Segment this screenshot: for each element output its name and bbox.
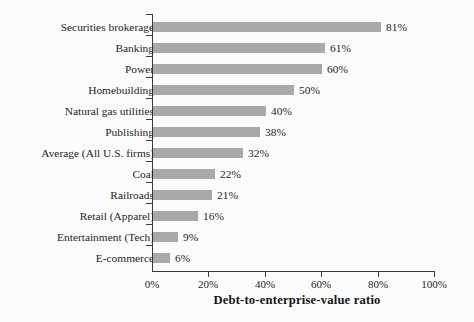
bar-row: Power60% — [0, 59, 474, 80]
category-label: Power — [4, 59, 154, 80]
bar — [153, 85, 294, 95]
x-tick-label: 40% — [242, 277, 288, 291]
bar-value-label: 38% — [265, 122, 286, 143]
bar-row: Coal22% — [0, 164, 474, 185]
bar — [153, 211, 198, 221]
bar — [153, 43, 325, 53]
bar — [153, 22, 381, 32]
bar-row: Homebuilding50% — [0, 80, 474, 101]
category-label: Entertainment (Tech) — [4, 227, 154, 248]
category-label: Publishing — [4, 122, 154, 143]
bar-row: Retail (Apparel)16% — [0, 206, 474, 227]
category-label: Natural gas utilities — [4, 101, 154, 122]
category-label: Homebuilding — [4, 80, 154, 101]
bar-value-label: 16% — [203, 206, 224, 227]
category-label: Securities brokerage — [4, 17, 154, 38]
x-axis-title-text: Debt-to-enterprise-value ratio — [213, 293, 380, 307]
x-axis-title: Debt-to-enterprise-value ratio — [0, 293, 474, 308]
bar — [153, 106, 266, 116]
x-tick-label: 60% — [298, 277, 344, 291]
bar — [153, 64, 322, 74]
bar-row: Publishing38% — [0, 122, 474, 143]
bar-value-label: 32% — [248, 143, 269, 164]
category-label: E-commerce — [4, 248, 154, 269]
bar — [153, 232, 178, 242]
bar-row: Average (All U.S. firms)32% — [0, 143, 474, 164]
bar-value-label: 9% — [183, 227, 198, 248]
bar — [153, 190, 212, 200]
x-tick-label: 0% — [129, 277, 175, 291]
bar-row: Railroads21% — [0, 185, 474, 206]
bar-row: E-commerce6% — [0, 248, 474, 269]
bar-value-label: 61% — [330, 38, 351, 59]
x-tick-label: 100% — [411, 277, 457, 291]
bar — [153, 127, 260, 137]
bar-row: Securities brokerage81% — [0, 17, 474, 38]
category-label: Banking — [4, 38, 154, 59]
category-label: Average (All U.S. firms) — [4, 143, 154, 164]
bar — [153, 253, 170, 263]
bar — [153, 148, 243, 158]
category-label: Railroads — [4, 185, 154, 206]
bar-chart: Securities brokerage81%Banking61%Power60… — [0, 0, 474, 322]
bar-row: Banking61% — [0, 38, 474, 59]
y-tick — [146, 14, 152, 15]
bar-row: Entertainment (Tech)9% — [0, 227, 474, 248]
bar — [153, 169, 215, 179]
bar-value-label: 60% — [327, 59, 348, 80]
bar-value-label: 22% — [220, 164, 241, 185]
bar-value-label: 21% — [217, 185, 238, 206]
category-label: Retail (Apparel) — [4, 206, 154, 227]
x-axis-line — [152, 271, 435, 272]
bar-value-label: 40% — [271, 101, 292, 122]
x-tick-label: 80% — [355, 277, 401, 291]
category-label: Coal — [4, 164, 154, 185]
x-tick-label: 20% — [185, 277, 231, 291]
bar-value-label: 50% — [299, 80, 320, 101]
bar-value-label: 6% — [175, 248, 190, 269]
bar-row: Natural gas utilities40% — [0, 101, 474, 122]
bar-value-label: 81% — [386, 17, 407, 38]
